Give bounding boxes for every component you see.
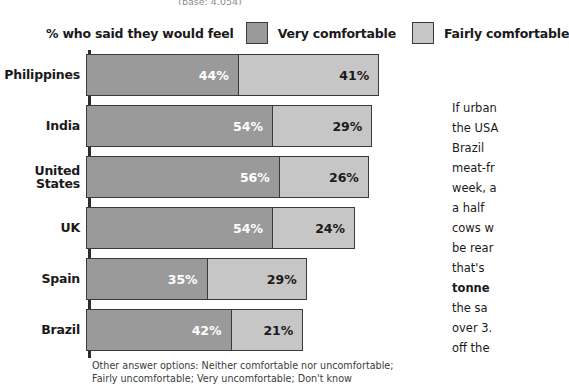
article-side-text: If urbanthe USABrazilmeat-frweek, aa hal… bbox=[452, 98, 562, 358]
stacked-bar: 42%21% bbox=[86, 309, 303, 351]
article-text-line: If urban bbox=[452, 98, 562, 118]
fairly-comfortable-swatch bbox=[412, 22, 434, 44]
chart-row: Brazil42%21% bbox=[0, 309, 420, 351]
bar-segment-very-comfortable: 42% bbox=[87, 310, 231, 350]
very-comfortable-swatch bbox=[246, 22, 268, 44]
bar-segment-very-comfortable: 54% bbox=[87, 208, 272, 248]
chart-base-note: (base: 4,054) bbox=[0, 0, 420, 5]
article-text-line: Brazil bbox=[452, 138, 562, 158]
bar-value-label: 29% bbox=[332, 119, 371, 134]
article-text-line: tonne bbox=[452, 278, 562, 298]
bar-value-label: 29% bbox=[267, 272, 306, 287]
article-text-line: over 3. bbox=[452, 318, 562, 338]
category-label: Spain bbox=[0, 272, 84, 285]
legend-lead-text: % who said they would feel bbox=[46, 26, 234, 41]
category-label: Brazil bbox=[0, 323, 84, 336]
category-label: United States bbox=[0, 164, 84, 190]
article-text-line: a half bbox=[452, 198, 562, 218]
bar-segment-fairly-comfortable: 29% bbox=[272, 106, 371, 146]
article-text-line: that's bbox=[452, 258, 562, 278]
bar-segment-fairly-comfortable: 21% bbox=[231, 310, 303, 350]
article-text-line: cows w bbox=[452, 218, 562, 238]
bar-segment-fairly-comfortable: 29% bbox=[207, 259, 306, 299]
stacked-bar-chart: Philippines44%41%India54%29%United State… bbox=[0, 50, 420, 360]
bar-value-label: 21% bbox=[263, 323, 302, 338]
bar-value-label: 24% bbox=[315, 221, 354, 236]
category-label: Philippines bbox=[0, 68, 84, 81]
bar-value-label: 56% bbox=[240, 170, 279, 185]
bar-value-label: 54% bbox=[233, 119, 272, 134]
chart-row: Spain35%29% bbox=[0, 258, 420, 300]
footnote-line-2: Fairly uncomfortable; Very uncomfortable… bbox=[92, 373, 422, 386]
footnote-line-1: Other answer options: Neither comfortabl… bbox=[92, 360, 422, 373]
legend-label-very-comfortable: Very comfortable bbox=[278, 26, 396, 41]
bar-value-label: 42% bbox=[192, 323, 231, 338]
stacked-bar: 35%29% bbox=[86, 258, 307, 300]
bar-segment-very-comfortable: 44% bbox=[87, 55, 238, 95]
article-text-line: off the bbox=[452, 338, 562, 358]
bar-segment-fairly-comfortable: 41% bbox=[238, 55, 378, 95]
chart-footnote: Other answer options: Neither comfortabl… bbox=[92, 360, 422, 385]
bar-segment-fairly-comfortable: 24% bbox=[272, 208, 354, 248]
bar-segment-very-comfortable: 35% bbox=[87, 259, 207, 299]
chart-row: India54%29% bbox=[0, 105, 420, 147]
bar-segment-very-comfortable: 56% bbox=[87, 157, 279, 197]
bar-value-label: 54% bbox=[233, 221, 272, 236]
stacked-bar: 44%41% bbox=[86, 54, 379, 96]
bar-segment-very-comfortable: 54% bbox=[87, 106, 272, 146]
bar-value-label: 35% bbox=[168, 272, 207, 287]
chart-row: UK54%24% bbox=[0, 207, 420, 249]
chart-rows: Philippines44%41%India54%29%United State… bbox=[0, 54, 420, 360]
stacked-bar: 54%24% bbox=[86, 207, 355, 249]
stacked-bar: 54%29% bbox=[86, 105, 372, 147]
bar-value-label: 41% bbox=[339, 68, 378, 83]
category-label: India bbox=[0, 119, 84, 132]
chart-legend: % who said they would feel Very comforta… bbox=[0, 20, 526, 46]
article-text-line: the sa bbox=[452, 298, 562, 318]
bar-segment-fairly-comfortable: 26% bbox=[279, 157, 368, 197]
chart-row: United States56%26% bbox=[0, 156, 420, 198]
article-text-line: the USA bbox=[452, 118, 562, 138]
bar-value-label: 44% bbox=[199, 68, 238, 83]
category-label: UK bbox=[0, 221, 84, 234]
article-text-line: be rear bbox=[452, 238, 562, 258]
bar-value-label: 26% bbox=[329, 170, 368, 185]
stacked-bar: 56%26% bbox=[86, 156, 369, 198]
article-text-line: week, a bbox=[452, 178, 562, 198]
legend-label-fairly-comfortable: Fairly comfortable bbox=[444, 26, 569, 41]
chart-row: Philippines44%41% bbox=[0, 54, 420, 96]
article-text-line: meat-fr bbox=[452, 158, 562, 178]
